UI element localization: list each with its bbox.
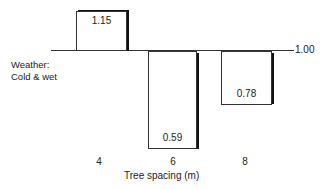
x-tick-4: 4 [89, 156, 109, 167]
x-tick-8: 8 [235, 156, 255, 167]
bar-value-8: 0.78 [221, 88, 272, 99]
weather-value: Cold & wet [11, 71, 57, 83]
bar-value-4: 1.15 [76, 15, 127, 26]
baseline-label: 1.00 [295, 44, 314, 55]
weather-label: Weather: [11, 59, 57, 71]
bar-value-6: 0.59 [148, 132, 197, 143]
reference-line [284, 50, 294, 51]
x-axis-label: Tree spacing (m) [124, 170, 199, 181]
x-tick-6: 6 [163, 156, 183, 167]
weather-annotation: Weather: Cold & wet [11, 59, 57, 83]
